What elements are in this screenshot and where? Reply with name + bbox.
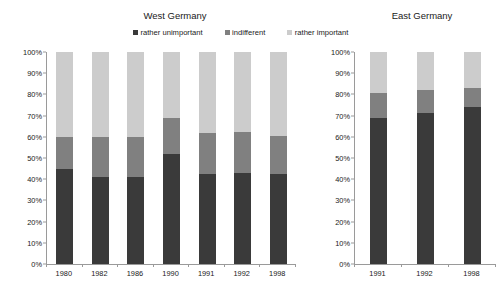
y-axis-tick-label: 30% [335,196,350,205]
legend-item: rather unimportant [133,29,203,37]
bar-segment [270,52,287,136]
chart-legend: rather unimportantindifferentrather impo… [133,29,348,37]
bar-segment [270,174,287,264]
y-axis-tick-label: 80% [335,90,350,99]
bar-segment [127,137,144,177]
bar-segment [234,132,251,173]
bar-slot [355,52,402,264]
legend-item: indifferent [225,29,266,37]
bar-segment [163,52,180,118]
bar-slot [225,52,261,264]
y-axis-tick-label: 40% [27,175,42,184]
x-axis-tick-mark [354,264,355,267]
y-axis-tick-label: 90% [27,69,42,78]
bar-segment [464,52,481,88]
stacked-bar [163,52,180,264]
plot-area-east [354,52,496,265]
bar-segment [417,90,434,113]
bar-segment [370,93,387,117]
bar-group-west [47,52,296,264]
bar-segment [464,107,481,264]
bar-slot [118,52,154,264]
bar-segment [234,52,251,132]
bar-segment [92,177,109,264]
chart-page: West Germany East Germany rather unimpor… [0,0,504,303]
stacked-bar [234,52,251,264]
y-axis-tick-label: 10% [27,238,42,247]
x-axis-tick-mark [295,264,296,267]
bar-slot [189,52,225,264]
x-axis-tick-mark [117,264,118,267]
bar-slot [402,52,449,264]
bar-segment [199,133,216,174]
y-axis-west: 100%90%80%70%60%50%40%30%20%10%0% [22,52,46,264]
bar-segment [370,118,387,264]
bar-segment [163,118,180,154]
stacked-bar [417,52,434,264]
x-axis-tick-label: 1986 [117,269,153,278]
bar-slot [154,52,190,264]
bar-segment [270,136,287,174]
x-axis-tick-mark [46,264,47,267]
bar-segment [199,52,216,133]
x-axis-tick-mark [82,264,83,267]
x-axis-tick-label: 1990 [153,269,189,278]
stacked-bar [199,52,216,264]
y-axis-tick-label: 100% [331,48,350,57]
y-axis-tick-label: 60% [335,132,350,141]
y-axis-tick-label: 40% [335,175,350,184]
stacked-bar [270,52,287,264]
x-axis-east: 199119921998 [354,269,495,278]
legend-square-icon [225,30,230,35]
y-axis-tick-label: 0% [31,260,42,269]
x-axis-tick-label: 1998 [448,269,495,278]
bar-slot [47,52,83,264]
bar-segment [370,52,387,93]
stacked-bar [127,52,144,264]
bar-segment [417,113,434,264]
legend-item-label: indifferent [232,29,265,37]
x-axis-tick-label: 1991 [188,269,224,278]
bar-slot [83,52,119,264]
x-axis-tick-label: 1982 [82,269,118,278]
x-axis-tick-mark [495,264,496,267]
x-axis-tick-label: 1992 [401,269,448,278]
y-axis-tick-label: 20% [335,217,350,226]
x-axis-tick-label: 1980 [46,269,82,278]
x-axis-tick-label: 1992 [224,269,260,278]
bar-segment [127,52,144,137]
x-axis-tick-mark [188,264,189,267]
bar-segment [464,88,481,107]
legend-item-label: rather unimportant [141,29,203,37]
y-axis-tick-label: 50% [27,154,42,163]
bar-segment [417,52,434,90]
x-axis-tick-mark [153,264,154,267]
plot-area-west [46,52,296,265]
bar-segment [127,177,144,264]
bar-segment [163,154,180,264]
bar-segment [56,169,73,264]
y-axis-tick-label: 70% [335,111,350,120]
stacked-bar [92,52,109,264]
bar-segment [199,174,216,264]
legend-item: rather important [287,29,348,37]
bar-segment [56,137,73,169]
y-axis-tick-label: 30% [27,196,42,205]
x-axis-tick-mark [448,264,449,267]
x-axis-tick-mark [401,264,402,267]
x-axis-tick-mark [259,264,260,267]
legend-square-icon [287,30,292,35]
stacked-bar [370,52,387,264]
panel-title-west: West Germany [60,10,290,21]
y-axis-tick-label: 60% [27,132,42,141]
x-axis-tick-label: 1998 [259,269,295,278]
stacked-bar [464,52,481,264]
y-axis-tick-label: 10% [335,238,350,247]
y-axis-tick-label: 50% [335,154,350,163]
stacked-bar [56,52,73,264]
y-axis-tick-label: 0% [339,260,350,269]
bar-segment [234,173,251,264]
panel-title-east: East Germany [362,10,482,21]
bar-slot [449,52,496,264]
y-axis-east: 100%90%80%70%60%50%40%30%20%10%0% [330,52,354,264]
